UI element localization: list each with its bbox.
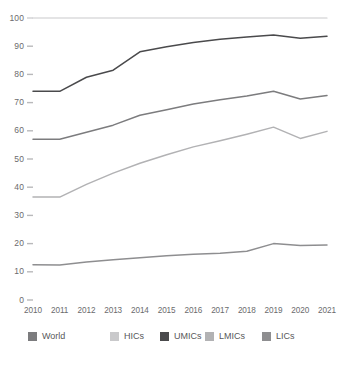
y-tick-label: 20 (0, 239, 24, 248)
x-tick-label: 2011 (47, 307, 73, 315)
x-tick-label: 2013 (100, 307, 126, 315)
legend-item-hics[interactable]: HICs (110, 328, 144, 344)
y-tick-label: 90 (0, 42, 24, 51)
y-tick-label: 50 (0, 155, 24, 164)
legend-label: HICs (124, 332, 144, 341)
legend-swatch-icon (160, 332, 169, 341)
legend-item-umics[interactable]: UMICs (160, 328, 202, 344)
legend-item-lmics[interactable]: LMICs (205, 328, 245, 344)
series-line-world (33, 91, 327, 139)
x-tick-label: 2021 (314, 307, 340, 315)
series-line-lmics (33, 127, 327, 197)
x-tick-label: 2016 (180, 307, 206, 315)
x-tick-label: 2012 (73, 307, 99, 315)
legend-item-world[interactable]: World (28, 328, 65, 344)
legend-swatch-icon (262, 332, 271, 341)
legend-swatch-icon (28, 332, 37, 341)
x-tick-label: 2017 (207, 307, 233, 315)
y-tick-label: 30 (0, 211, 24, 220)
legend-swatch-icon (110, 332, 119, 341)
x-tick-label: 2019 (261, 307, 287, 315)
x-tick-label: 2020 (287, 307, 313, 315)
y-tick-label: 80 (0, 70, 24, 79)
y-axis-ticks (27, 46, 33, 300)
legend-label: LMICs (219, 332, 245, 341)
y-tick-label: 10 (0, 267, 24, 276)
y-tick-label: 100 (0, 14, 24, 23)
legend-label: LICs (276, 332, 295, 341)
plot-area: 0102030405060708090100 20102011201220132… (0, 0, 331, 318)
y-tick-label: 40 (0, 183, 24, 192)
x-tick-label: 2015 (154, 307, 180, 315)
y-tick-label: 0 (0, 296, 24, 305)
legend-swatch-icon (205, 332, 214, 341)
series-line-lics (33, 244, 327, 265)
y-tick-label: 60 (0, 126, 24, 135)
legend-label: UMICs (174, 332, 202, 341)
legend-item-lics[interactable]: LICs (262, 328, 295, 344)
x-tick-label: 2018 (234, 307, 260, 315)
legend-label: World (42, 332, 65, 341)
series-line-umics (33, 35, 327, 91)
chart-legend: WorldHICsUMICsLMICsLICs (0, 328, 331, 348)
plot-svg (0, 0, 331, 318)
x-tick-label: 2014 (127, 307, 153, 315)
x-tick-label: 2010 (20, 307, 46, 315)
y-tick-label: 70 (0, 98, 24, 107)
